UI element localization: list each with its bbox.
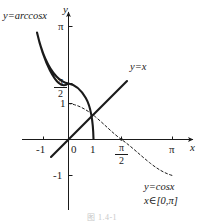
x-tick-label-0: 0 xyxy=(71,144,77,155)
y-tick-label-pi: π xyxy=(58,21,64,32)
x-tick-pi-over-2-denominator: 2 xyxy=(115,156,128,167)
cos-domain-label: x∈[0,π] xyxy=(144,196,178,207)
figure-caption: 图 1.4-1 xyxy=(0,211,204,221)
x-axis-label: x xyxy=(190,142,195,153)
x-tick-label-1: 1 xyxy=(90,144,96,155)
x-tick-pi-over-2-numerator: π xyxy=(115,143,128,154)
identity-line-label: y=x xyxy=(130,62,146,73)
pi-over-2-axis-point xyxy=(120,138,123,141)
y-tick-label-neg1: -1 xyxy=(53,170,62,181)
y-tick-pi-over-2-numerator: π xyxy=(54,76,67,87)
y-axis-label: y xyxy=(63,4,68,15)
arccos-cos-graph-figure: y=arccosx y=x y=cosx x∈[0,π] x y -1 0 1 … xyxy=(0,0,204,221)
x-tick-label-pi-over-2: π 2 xyxy=(115,143,128,166)
x-tick-label-pi: π xyxy=(169,144,175,155)
y-tick-label-pi-over-2: π 2 xyxy=(54,76,67,99)
x-tick-label-neg1: -1 xyxy=(36,144,45,155)
y-tick-label-1: 1 xyxy=(60,98,66,109)
cos-curve-label: y=cosx xyxy=(144,182,174,193)
arccos-curve-label: y=arccosx xyxy=(3,11,47,22)
